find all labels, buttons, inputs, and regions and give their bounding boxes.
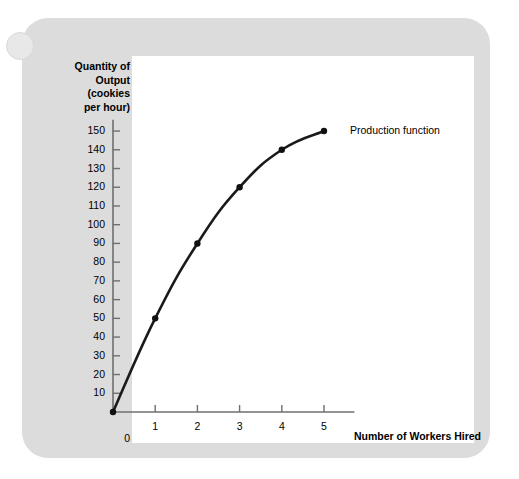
data-point-marker-2 (194, 240, 200, 246)
series-annotation-label: Production function (350, 124, 440, 136)
data-point-markers (110, 128, 327, 415)
data-point-marker-0 (110, 409, 116, 415)
production-function-line (113, 131, 324, 412)
data-point-marker-5 (321, 128, 327, 134)
axes-group (113, 120, 354, 412)
figure-panel: Quantity of Output (cookies per hour) Nu… (22, 18, 490, 458)
data-point-marker-1 (152, 315, 158, 321)
data-point-marker-3 (236, 184, 242, 190)
tick-marks-group (113, 131, 324, 412)
chart-canvas (22, 18, 490, 458)
data-point-marker-4 (279, 147, 285, 153)
